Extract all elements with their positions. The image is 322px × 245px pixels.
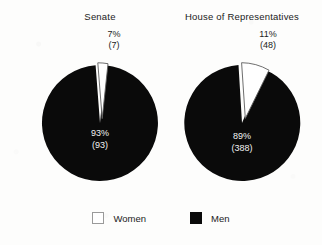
pie-chart-figure: Senate 7% (7) 93% (93) House of Represen… xyxy=(0,0,322,245)
senate-women-callout: 7% (7) xyxy=(92,29,136,51)
legend-swatch-men-icon xyxy=(190,212,202,224)
legend-label-men: Men xyxy=(211,213,229,224)
chart-legend: Women Men xyxy=(0,212,322,224)
senate-women-percent: 7% xyxy=(92,29,136,40)
senate-pie-svg xyxy=(37,60,163,188)
legend-swatch-women-icon xyxy=(92,212,104,224)
house-pie xyxy=(179,60,305,188)
senate-men-count: (93) xyxy=(62,140,138,152)
house-women-count: (48) xyxy=(244,40,292,51)
legend-item-men[interactable]: Men xyxy=(190,212,229,224)
legend-item-women[interactable]: Women xyxy=(92,212,146,224)
senate-chart-title: Senate xyxy=(40,11,160,22)
house-pie-svg xyxy=(179,60,305,188)
house-women-percent: 11% xyxy=(244,29,292,40)
house-men-percent: 89% xyxy=(204,131,280,143)
senate-men-inner-label: 93% (93) xyxy=(62,128,138,151)
senate-women-count: (7) xyxy=(92,40,136,51)
senate-men-percent: 93% xyxy=(62,128,138,140)
legend-label-women: Women xyxy=(113,213,146,224)
house-men-slice[interactable] xyxy=(184,65,300,181)
senate-pie xyxy=(37,60,163,188)
house-chart-title: House of Representatives xyxy=(172,11,312,22)
house-men-inner-label: 89% (388) xyxy=(204,131,280,154)
house-women-callout: 11% (48) xyxy=(244,29,292,51)
house-men-count: (388) xyxy=(204,143,280,155)
